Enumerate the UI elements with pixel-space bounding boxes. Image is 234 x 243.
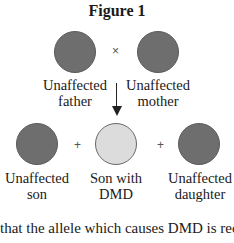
father-label: Unaffected father — [30, 77, 120, 109]
cross-symbol: × — [112, 44, 119, 58]
father-circle — [54, 31, 96, 73]
arrow-down-icon — [112, 106, 122, 116]
affected-son-label-line2: DMD — [71, 186, 161, 202]
son-label-line1: Unaffected — [0, 170, 82, 186]
affected-son-label-line1: Son with — [71, 170, 161, 186]
unaffected-daughter-label: Unaffected daughter — [155, 170, 234, 202]
figure-title: Figure 1 — [0, 2, 234, 20]
mother-circle — [137, 31, 179, 73]
plus-symbol-1: + — [74, 138, 81, 152]
affected-son-circle — [95, 123, 137, 165]
mother-label: Unaffected mother — [113, 77, 203, 109]
caption-text: that the allele which causes DMD is rece… — [0, 220, 234, 237]
mother-label-line1: Unaffected — [113, 77, 203, 93]
unaffected-son-circle — [16, 123, 58, 165]
unaffected-son-label: Unaffected son — [0, 170, 82, 202]
father-label-line1: Unaffected — [30, 77, 120, 93]
affected-son-label: Son with DMD — [71, 170, 161, 202]
plus-symbol-2: + — [157, 138, 164, 152]
father-label-line2: father — [30, 93, 120, 109]
daughter-label-line1: Unaffected — [155, 170, 234, 186]
unaffected-daughter-circle — [178, 123, 220, 165]
arrow-line — [116, 83, 117, 107]
daughter-label-line2: daughter — [155, 186, 234, 202]
mother-label-line2: mother — [113, 93, 203, 109]
son-label-line2: son — [0, 186, 82, 202]
